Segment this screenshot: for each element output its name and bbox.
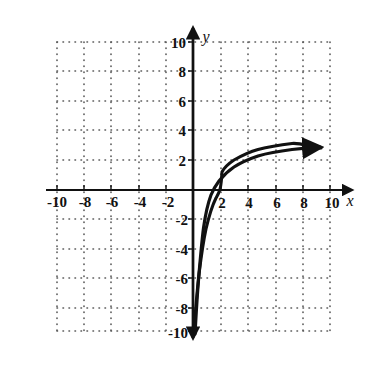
y-tick-label-neg2: -2	[176, 212, 189, 228]
x-tick-label-2: 2	[218, 195, 226, 211]
x-tick-label-neg8: -8	[79, 194, 92, 210]
y-tick-label-neg10: -10	[168, 325, 188, 341]
y-tick-label-2: 2	[179, 153, 187, 169]
x-tick-label-neg10: -10	[47, 194, 67, 210]
y-tick-label-neg4: -4	[176, 242, 189, 258]
x-tick-label-neg6: -6	[106, 194, 119, 210]
x-tick-label-8: 8	[300, 195, 308, 211]
y-tick-label-4: 4	[179, 123, 187, 139]
y-tick-label-neg6: -6	[176, 271, 189, 287]
y-tick-label-neg8: -8	[176, 301, 189, 317]
y-axis-label: y	[200, 28, 210, 46]
x-tick-label-neg2: -2	[162, 194, 175, 210]
x-tick-label-4: 4	[245, 195, 253, 211]
coordinate-plane: -10 -8 -6 -4 -2 2 4 6 8 10 10 8 6 4 2 -2…	[0, 0, 366, 365]
x-tick-label-6: 6	[273, 195, 281, 211]
x-tick-label-neg4: -4	[134, 194, 147, 210]
y-tick-label-10: 10	[171, 35, 186, 51]
x-tick-label-10: 10	[325, 195, 340, 211]
logarithmic-graph-figure: Asymptote: x = 0	[0, 0, 366, 365]
y-tick-label-6: 6	[179, 94, 187, 110]
y-tick-label-8: 8	[179, 64, 187, 80]
x-axis-label: x	[345, 192, 353, 209]
